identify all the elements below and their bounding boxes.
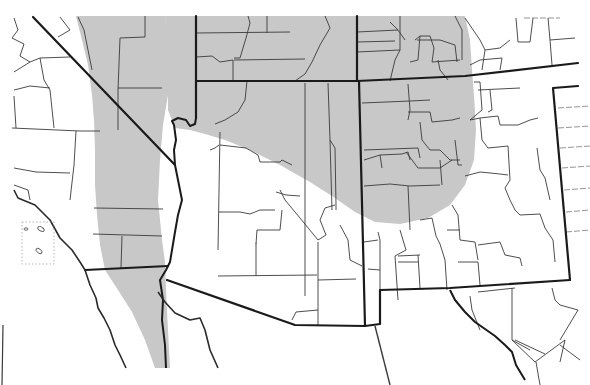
range-northeastern — [165, 16, 476, 224]
border-newmexico-mexico — [365, 280, 570, 326]
distribution-map — [0, 0, 590, 385]
rio-grande — [450, 290, 525, 380]
range-western-band — [76, 16, 170, 368]
border-newmexico-texas — [553, 86, 578, 280]
coastlines — [14, 190, 525, 380]
channel-islands — [22, 222, 54, 264]
